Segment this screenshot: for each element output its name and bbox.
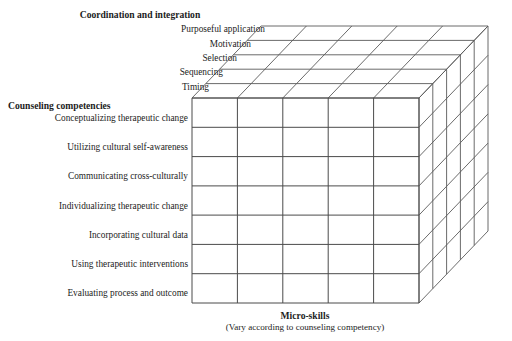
competency-label-using-therapeutic-interventions: Using therapeutic interventions bbox=[0, 260, 188, 269]
depth-label-sequencing: Sequencing bbox=[60, 68, 223, 77]
horizontal-axis-title: Micro-skills bbox=[186, 311, 424, 321]
front-face-grid bbox=[192, 98, 419, 303]
depth-label-motivation: Motivation bbox=[60, 40, 251, 49]
horizontal-axis-subtitle: (Vary according to counseling competency… bbox=[186, 323, 424, 332]
depth-axis-title: Coordination and integration bbox=[0, 10, 280, 20]
competency-label-communicating-cross-culturally: Communicating cross-culturally bbox=[0, 172, 188, 181]
competency-label-utilizing-cultural-self-awareness: Utilizing cultural self-awareness bbox=[0, 143, 188, 152]
figure-canvas: Coordination and integration Purposeful … bbox=[0, 0, 512, 341]
depth-label-timing: Timing bbox=[60, 83, 209, 92]
depth-label-selection: Selection bbox=[60, 54, 237, 63]
vertical-axis-title: Counseling competencies bbox=[8, 101, 111, 111]
right-face-grid bbox=[419, 26, 488, 303]
competency-label-conceptualizing-therapeutic-change: Conceptualizing therapeutic change bbox=[0, 114, 188, 123]
competency-label-incorporating-cultural-data: Incorporating cultural data bbox=[0, 231, 188, 240]
competency-label-individualizing-therapeutic-change: Individualizing therapeutic change bbox=[0, 202, 188, 211]
competency-label-evaluating-process-and-outcome: Evaluating process and outcome bbox=[0, 289, 188, 298]
depth-label-purposeful-application: Purposeful application bbox=[60, 25, 265, 34]
